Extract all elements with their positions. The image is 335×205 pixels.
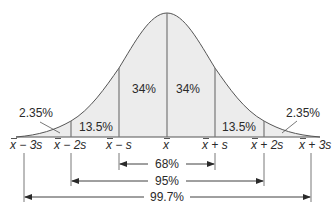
range-99-7: 99.7% bbox=[25, 190, 310, 204]
axis-label-minus-3s: x − 3s bbox=[9, 138, 42, 152]
axis-label-minus-2s: x − 2s bbox=[53, 138, 86, 152]
axis-label-plus-2s: x + 2s bbox=[250, 138, 283, 152]
svg-text:x + 2s: x + 2s bbox=[250, 138, 283, 152]
axis-label-plus-1s: x + s bbox=[201, 138, 228, 152]
region-label-right-tail: 2.35% bbox=[286, 106, 320, 120]
svg-text:x + 3s: x + 3s bbox=[298, 138, 331, 152]
range-95: 95% bbox=[72, 174, 263, 188]
svg-text:68%: 68% bbox=[155, 157, 179, 171]
region-label-left-2s: 13.5% bbox=[79, 120, 113, 134]
axis-label-mean: x bbox=[162, 138, 170, 152]
svg-text:x − 3s: x − 3s bbox=[9, 138, 42, 152]
region-label-left-1s: 34% bbox=[132, 82, 156, 96]
leader-right-tail bbox=[282, 121, 297, 133]
curve-fill bbox=[16, 13, 320, 137]
axis-label-plus-3s: x + 3s bbox=[298, 138, 331, 152]
svg-text:95%: 95% bbox=[155, 174, 179, 188]
region-label-right-2s: 13.5% bbox=[222, 120, 256, 134]
normal-distribution-diagram: 2.35% 13.5% 34% 34% 13.5% 2.35% x − 3s x… bbox=[0, 0, 335, 205]
region-label-right-1s: 34% bbox=[176, 82, 200, 96]
svg-text:x − s: x − s bbox=[105, 138, 132, 152]
svg-text:x − 2s: x − 2s bbox=[53, 138, 86, 152]
range-68: 68% bbox=[120, 157, 214, 171]
axis-label-minus-1s: x − s bbox=[105, 138, 132, 152]
region-label-left-tail: 2.35% bbox=[19, 106, 53, 120]
svg-text:x + s: x + s bbox=[201, 138, 228, 152]
svg-text:x: x bbox=[162, 138, 170, 152]
svg-text:99.7%: 99.7% bbox=[150, 190, 184, 204]
